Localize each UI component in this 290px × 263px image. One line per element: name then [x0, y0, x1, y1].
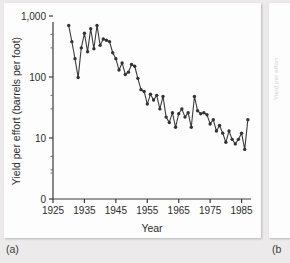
data-point: [161, 95, 164, 98]
data-point: [221, 131, 224, 134]
data-point: [133, 65, 136, 68]
x-axis-tick-labels: 1925193519451955196519751985: [42, 205, 253, 216]
data-point: [199, 112, 202, 115]
panel-b-caption: (b: [272, 243, 281, 255]
data-point: [80, 46, 83, 49]
data-point: [174, 126, 177, 129]
data-point: [227, 129, 230, 132]
data-point: [243, 148, 246, 151]
panel-a-chart-card: 1,000100100 1925193519451955196519751985…: [4, 3, 261, 238]
x-tick-label: 1985: [230, 205, 253, 216]
data-point: [92, 47, 95, 50]
data-point: [105, 39, 108, 42]
data-point: [111, 51, 114, 54]
data-point: [186, 111, 189, 114]
data-point: [98, 44, 101, 47]
data-point: [193, 95, 196, 98]
data-point: [196, 109, 199, 112]
data-point: [224, 141, 227, 144]
data-point: [171, 111, 174, 114]
data-point: [70, 40, 73, 43]
data-point: [168, 121, 171, 124]
y-tick-label: 1,000: [21, 11, 46, 22]
yield-per-effort-line-chart: 1,000100100 1925193519451955196519751985…: [4, 3, 261, 238]
x-tick-label: 1945: [105, 205, 128, 216]
data-point: [73, 57, 76, 60]
data-point: [164, 115, 167, 118]
data-point: [146, 102, 149, 105]
data-point: [180, 107, 183, 110]
data-point: [102, 37, 105, 40]
x-tick-label: 1955: [136, 205, 159, 216]
x-tick-label: 1965: [168, 205, 191, 216]
x-tick-label: 1975: [199, 205, 222, 216]
data-point: [127, 70, 130, 73]
data-point: [89, 27, 92, 30]
y-tick-label: 0: [40, 194, 46, 205]
data-point: [246, 118, 249, 121]
data-point: [205, 113, 208, 116]
data-point: [212, 118, 215, 121]
data-point: [139, 88, 142, 91]
data-point: [86, 50, 89, 53]
data-point: [114, 57, 117, 60]
figure-container: 1,000100100 1925193519451955196519751985…: [0, 0, 290, 263]
data-point: [240, 131, 243, 134]
data-point: [208, 122, 211, 125]
data-point: [215, 129, 218, 132]
data-point: [120, 61, 123, 64]
data-point: [130, 63, 133, 66]
y-tick-label: 100: [29, 72, 46, 83]
data-point: [83, 32, 86, 35]
data-point: [152, 98, 155, 101]
data-point: [237, 138, 240, 141]
data-point: [177, 112, 180, 115]
data-point: [142, 90, 145, 93]
x-axis-ticks: [53, 199, 242, 203]
data-point: [190, 126, 193, 129]
data-point: [234, 142, 237, 145]
data-point: [230, 138, 233, 141]
data-point: [108, 40, 111, 43]
data-point: [202, 111, 205, 114]
data-series-line: [69, 25, 248, 149]
data-point: [117, 68, 120, 71]
data-point: [67, 24, 70, 27]
data-point: [158, 107, 161, 110]
data-point: [183, 115, 186, 118]
data-point: [155, 94, 158, 97]
y-tick-label: 10: [35, 133, 47, 144]
panel-b-chart-card: Yield per effort: [269, 3, 290, 238]
data-point: [95, 24, 98, 27]
y-axis-title: Yield per effort (barrels per foot): [10, 37, 22, 185]
y-axis-tick-labels: 1,000100100: [21, 11, 46, 205]
panel-a-caption: (a): [6, 243, 19, 255]
x-tick-label: 1935: [73, 205, 96, 216]
data-point: [124, 73, 127, 76]
data-point: [149, 93, 152, 96]
x-axis-title: Year: [141, 222, 163, 234]
data-point: [76, 76, 79, 79]
data-point: [136, 77, 139, 80]
data-point: [218, 124, 221, 127]
panel-b-axis-label: Yield per effort: [273, 58, 279, 100]
x-tick-label: 1925: [42, 205, 65, 216]
